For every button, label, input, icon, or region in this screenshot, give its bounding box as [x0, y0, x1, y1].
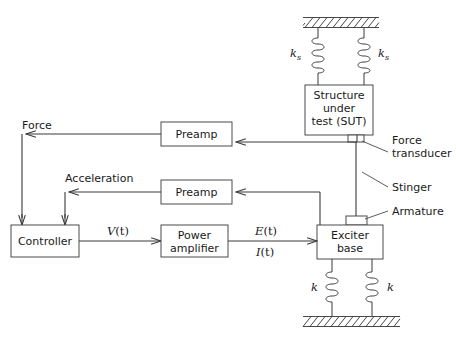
- stiffness-label-ks-right: ks: [378, 46, 389, 62]
- box-preamp-acceleration[interactable]: Preamp: [161, 180, 232, 204]
- signal-label-force: Force: [22, 119, 52, 132]
- preamp-acceleration-label: Preamp: [176, 186, 218, 199]
- power-amplifier-label-line-2: amplifier: [170, 242, 219, 255]
- spring-ks-right: [358, 28, 370, 86]
- callout-stinger: Stinger: [392, 181, 432, 194]
- callout-leader-force-transducer: [362, 141, 388, 152]
- signal-label-current: I(t): [255, 245, 274, 259]
- block-diagram: ks ks Structure under test (SUT) Exciter: [0, 0, 456, 339]
- wire-preamp-accel-to-controller: [65, 192, 161, 225]
- diagram-canvas: ks ks Structure under test (SUT) Exciter: [0, 0, 456, 339]
- signal-label-voltage: V(t): [107, 224, 129, 238]
- spring-k-right: [366, 259, 378, 316]
- callout-leader-armature: [365, 211, 388, 219]
- sut-label-line-2: under: [323, 102, 356, 115]
- spring-ks-left: [312, 28, 324, 86]
- exciter-base-label-line-1: Exciter: [331, 229, 369, 242]
- box-power-amplifier[interactable]: Power amplifier: [161, 225, 228, 257]
- callout-armature: Armature: [392, 205, 444, 218]
- power-amplifier-label-line-1: Power: [178, 229, 212, 242]
- box-structure-under-test[interactable]: Structure under test (SUT): [305, 85, 373, 135]
- stiffness-label-ks-left: ks: [290, 46, 301, 62]
- signal-label-emf: E(t): [254, 224, 277, 238]
- wire-transducer-to-preamp-force: [236, 135, 357, 142]
- sut-label-line-3: test (SUT): [312, 115, 367, 128]
- callout-force-transducer-line-1: Force: [392, 134, 422, 147]
- callout-leader-stinger: [362, 172, 388, 187]
- stiffness-label-k-left: k: [311, 280, 318, 294]
- armature-block: [346, 216, 367, 225]
- ceiling-support: [303, 18, 379, 28]
- controller-label: Controller: [18, 235, 73, 248]
- signal-label-acceleration: Acceleration: [65, 172, 133, 185]
- box-exciter-base[interactable]: Exciter base: [317, 225, 383, 259]
- exciter-base-label-line-2: base: [337, 242, 363, 255]
- preamp-force-label: Preamp: [176, 128, 218, 141]
- ground-support: [303, 317, 400, 327]
- callout-force-transducer-line-2: transducer: [392, 147, 452, 160]
- box-controller[interactable]: Controller: [11, 225, 79, 257]
- stiffness-label-k-right: k: [387, 280, 394, 294]
- box-preamp-force[interactable]: Preamp: [161, 122, 232, 146]
- spring-k-left: [326, 259, 338, 316]
- sut-label-line-1: Structure: [313, 89, 364, 102]
- force-transducer-block: [348, 135, 364, 142]
- wire-exciter-to-preamp-accel: [236, 192, 320, 225]
